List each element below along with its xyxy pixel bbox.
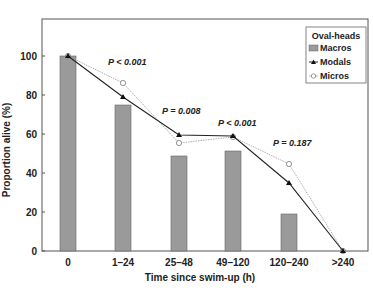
y-axis-label: Proportion alive (%) bbox=[1, 103, 12, 197]
x-tick-label: >240 bbox=[332, 257, 355, 268]
y-tick-label: 20 bbox=[26, 207, 38, 218]
y-axis: 0 20 40 60 80 100 bbox=[20, 51, 45, 257]
bar bbox=[60, 56, 76, 251]
macros-bars bbox=[60, 56, 297, 251]
p-value: P = 0.008 bbox=[162, 106, 200, 116]
x-axis-label: Time since swim-up (h) bbox=[145, 272, 255, 283]
p-value: P < 0.001 bbox=[108, 57, 146, 67]
survival-chart: 0 20 40 60 80 100 Proportion alive (%) P… bbox=[0, 0, 373, 291]
legend: Oval-heads Macros Modals Micros bbox=[306, 27, 366, 83]
y-tick-label: 100 bbox=[20, 51, 37, 62]
legend-label-modals: Modals bbox=[320, 57, 351, 67]
y-tick-label: 40 bbox=[26, 168, 38, 179]
bar bbox=[115, 105, 131, 251]
x-tick-label: 1–24 bbox=[112, 257, 135, 268]
bar bbox=[225, 151, 241, 251]
p-value-annotations: P < 0.001 P = 0.008 P < 0.001 P = 0.187 bbox=[108, 57, 312, 148]
legend-label-micros: Micros bbox=[320, 71, 349, 81]
x-tick-label: 25–48 bbox=[165, 257, 193, 268]
modals-markers bbox=[65, 53, 346, 253]
modals-line bbox=[68, 56, 343, 251]
x-tick-label: 49–120 bbox=[216, 257, 250, 268]
legend-title: Oval-heads bbox=[312, 31, 361, 41]
y-tick-label: 0 bbox=[31, 246, 37, 257]
p-value: P = 0.187 bbox=[273, 138, 312, 148]
x-tick-label: 0 bbox=[65, 257, 71, 268]
p-value: P < 0.001 bbox=[218, 118, 256, 128]
bar bbox=[171, 156, 187, 251]
x-tick-label: 120–240 bbox=[270, 257, 309, 268]
legend-bar-swatch bbox=[309, 45, 318, 51]
circle-icon bbox=[311, 74, 315, 78]
micros-line bbox=[68, 56, 343, 251]
bar bbox=[281, 214, 297, 251]
micros-markers bbox=[65, 53, 345, 253]
y-tick-label: 80 bbox=[26, 90, 38, 101]
x-axis: 0 1–24 25–48 49–120 120–240 >240 bbox=[65, 257, 354, 268]
y-tick-label: 60 bbox=[26, 129, 38, 140]
legend-label-macros: Macros bbox=[320, 43, 352, 53]
